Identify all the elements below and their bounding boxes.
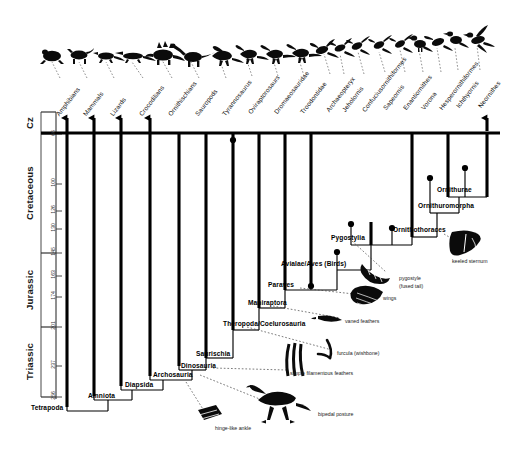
clade-label-ornithothoraces: Ornithothoraces <box>393 226 446 233</box>
taxon-silhouettes <box>40 25 495 67</box>
clade-label-theropoda: Theropoda/Coelurosauria <box>223 320 306 327</box>
modern-bird-silhouette <box>463 25 495 53</box>
era-label-triassic: Triassic <box>24 327 35 397</box>
phylogeny-figure: Cz Cretaceous Jurassic Triassic 66 100 1… <box>0 0 513 453</box>
annotation-pygostyle-sub: (fused tail) <box>399 283 423 290</box>
clade-label-avialae: Avialae/Aves (Birds) <box>281 260 346 267</box>
era-label-cz: Cz <box>24 112 35 134</box>
enantiornithine-silhouette <box>389 34 413 53</box>
tick-label: 174 <box>50 291 56 300</box>
ichthyornis-silhouette <box>443 32 469 48</box>
keeled-sternum-illustration <box>449 230 480 255</box>
confuciusornis-silhouette <box>346 36 370 55</box>
bipedal-posture-illustration <box>246 385 311 423</box>
clade-label-archosauria: Archosauria <box>153 371 193 378</box>
tick-label: 201 <box>50 321 56 330</box>
annotation-filamentous-feathers: simple filamentous feathers <box>290 370 353 377</box>
clade-label-dinosauria: Dinosauria <box>181 362 216 369</box>
tick-label: 237 <box>50 360 56 369</box>
tick-label: 100 <box>50 178 56 187</box>
annotation-hinge-like-ankle: hinge-like ankle <box>215 425 251 432</box>
frog-silhouette <box>40 49 64 64</box>
era-label-cretaceous: Cretaceous <box>24 134 35 253</box>
tick-label: 256 <box>50 391 56 400</box>
clade-label-saurischia: Saurischia <box>196 350 230 357</box>
tick-label: 145 <box>50 247 56 256</box>
clade-label-ornithuromorpha: Ornithuromorpha <box>418 202 474 209</box>
clade-label-paraves: Paraves <box>268 281 294 288</box>
clade-label-amniota: Amniota <box>88 392 115 399</box>
tick-label: 130 <box>50 223 56 232</box>
annotation-pygostyle: pygostyle <box>399 275 421 282</box>
sapeornis-silhouette <box>368 35 392 54</box>
mammal-silhouette <box>67 48 94 64</box>
tick-label: 126 <box>50 205 56 214</box>
furcula-illustration <box>318 340 331 358</box>
clade-label-ornithurae: Ornithurae <box>437 186 472 193</box>
tick-label: 163 <box>50 270 56 279</box>
wing-illustration <box>351 286 384 308</box>
lineage-range-bars <box>67 131 487 407</box>
tree-branches <box>67 136 487 411</box>
annotation-bipedal-posture: bipedal posture <box>318 411 353 418</box>
annotation-furcula: furcula (wishbone) <box>337 350 379 357</box>
annotation-wings: wings <box>383 295 396 302</box>
era-label-jurassic: Jurassic <box>24 253 35 327</box>
clade-label-maniraptora: Maniraptora <box>248 299 287 306</box>
crocodile-silhouette <box>115 51 156 63</box>
clade-label-tetrapoda: Tetrapoda <box>31 404 63 411</box>
silhouette-leader-lines <box>52 46 480 78</box>
clade-label-diapsida: Diapsida <box>125 381 153 388</box>
pygostyle-illustration <box>361 264 391 284</box>
vaned-feather-illustration <box>311 316 342 322</box>
survivor-arrows <box>67 118 487 131</box>
clade-label-pygostylia: Pygostylia <box>331 234 365 241</box>
annotation-keeled-sternum: keeled sternum <box>452 258 487 265</box>
tick-label: 66 <box>50 130 56 136</box>
sauropod-silhouette <box>171 43 215 67</box>
stegosaur-silhouette <box>145 41 185 65</box>
annotation-vaned-feathers: vaned feathers <box>345 318 379 325</box>
